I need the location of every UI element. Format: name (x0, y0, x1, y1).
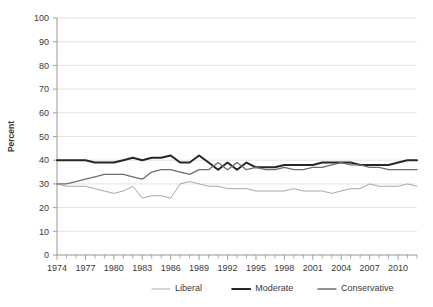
x-tick-label: 2010 (388, 263, 408, 273)
x-axis-tick-labels: 1974197719801983198619891992199519982001… (47, 263, 408, 273)
y-tick-label: 30 (39, 179, 49, 189)
x-tick-label: 1983 (132, 263, 152, 273)
x-tick-label: 2004 (331, 263, 351, 273)
legend-label-moderate: Moderate (255, 283, 293, 293)
x-tick-label: 1980 (104, 263, 124, 273)
x-tick-label: 2007 (360, 263, 380, 273)
y-tick-label: 20 (39, 203, 49, 213)
y-tick-label: 90 (39, 37, 49, 47)
y-tick-label: 50 (39, 132, 49, 142)
x-tick-label: 1977 (75, 263, 95, 273)
legend-label-conservative: Conservative (341, 283, 394, 293)
y-tick-label: 60 (39, 108, 49, 118)
line-chart: 0102030405060708090100 19741977198019831… (0, 0, 433, 307)
x-tick-label: 1974 (47, 263, 67, 273)
axis-tick-marks (53, 18, 417, 260)
x-tick-label: 1992 (218, 263, 238, 273)
x-tick-label: 1995 (246, 263, 266, 273)
x-tick-label: 1986 (161, 263, 181, 273)
x-tick-label: 1998 (274, 263, 294, 273)
y-tick-label: 70 (39, 84, 49, 94)
series-line-conservative (57, 163, 417, 184)
y-axis-tick-labels: 0102030405060708090100 (34, 13, 49, 260)
x-tick-label: 1989 (189, 263, 209, 273)
chart-container: 0102030405060708090100 19741977198019831… (0, 0, 433, 307)
y-tick-label: 100 (34, 13, 49, 23)
y-tick-label: 0 (44, 250, 49, 260)
chart-legend: LiberalModerateConservative (152, 283, 394, 293)
y-axis-title-text: Percent (6, 121, 16, 152)
y-axis-title: Percent (6, 121, 16, 152)
gridlines (57, 18, 417, 231)
legend-label-liberal: Liberal (175, 283, 202, 293)
x-tick-label: 2001 (303, 263, 323, 273)
y-tick-label: 40 (39, 155, 49, 165)
y-tick-label: 10 (39, 227, 49, 237)
data-series (57, 155, 417, 198)
y-tick-label: 80 (39, 61, 49, 71)
